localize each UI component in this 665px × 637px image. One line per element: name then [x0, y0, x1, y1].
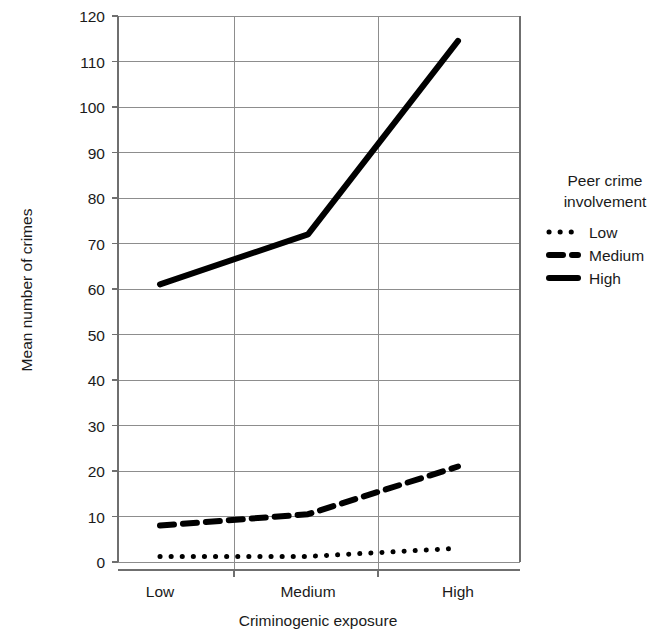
y-tick-label-110: 110: [80, 54, 105, 71]
legend-label-high: High: [589, 270, 621, 287]
y-tickmarks: [112, 16, 118, 562]
series-line-low: [160, 548, 458, 556]
legend-item-high[interactable]: High: [549, 270, 621, 287]
y-tick-label-40: 40: [88, 372, 106, 389]
legend-item-medium[interactable]: Medium: [549, 247, 644, 264]
legend-title-line1: Peer crime: [568, 172, 643, 189]
y-tick-label-70: 70: [88, 236, 106, 253]
x-tick-labels: Low Medium High: [146, 583, 474, 600]
y-tick-label-120: 120: [79, 8, 105, 25]
y-tick-label-50: 50: [88, 327, 106, 344]
legend: Peer crime involvement Low Medium High: [549, 172, 647, 287]
line-chart-svg: 120 110 100 90 80 70 60 50 40 30 20 10 0…: [0, 0, 665, 637]
x-axis-title: Criminogenic exposure: [239, 612, 398, 629]
series-line-high: [160, 41, 458, 284]
y-tick-label-10: 10: [88, 509, 106, 526]
chart-figure: 120 110 100 90 80 70 60 50 40 30 20 10 0…: [0, 0, 665, 637]
x-tick-label-low: Low: [146, 583, 175, 600]
legend-label-low: Low: [589, 224, 618, 241]
x-tick-label-medium: Medium: [280, 583, 335, 600]
x-gridlines: [234, 16, 378, 570]
legend-title-line2: involvement: [564, 193, 647, 210]
x-tickmarks: [234, 570, 378, 577]
y-tick-label-80: 80: [88, 190, 106, 207]
series-group: [160, 41, 458, 557]
y-gridlines: [118, 16, 520, 562]
y-tick-label-0: 0: [96, 554, 105, 571]
y-tick-labels: 120 110 100 90 80 70 60 50 40 30 20 10 0: [79, 8, 105, 571]
y-tick-label-20: 20: [88, 463, 106, 480]
y-tick-label-60: 60: [88, 281, 106, 298]
y-tick-label-30: 30: [88, 418, 106, 435]
legend-item-low[interactable]: Low: [549, 224, 618, 241]
legend-label-medium: Medium: [589, 247, 644, 264]
y-tick-label-90: 90: [88, 145, 106, 162]
x-tick-label-high: High: [442, 583, 474, 600]
y-tick-label-100: 100: [79, 99, 105, 116]
y-axis-title: Mean number of crimes: [18, 208, 35, 371]
